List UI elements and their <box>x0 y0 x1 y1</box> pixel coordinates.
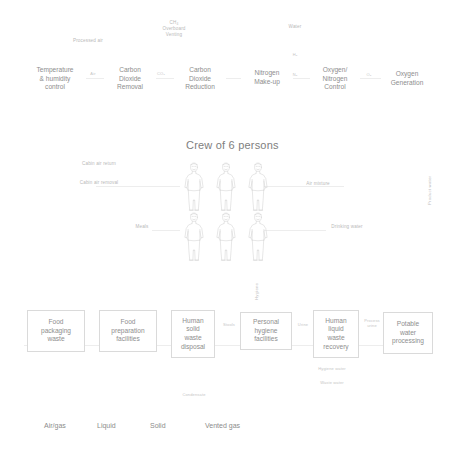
box-carbon-dioxide-reduction[interactable]: Carbon Dioxide Reduction <box>174 61 226 97</box>
flow-label-stools: Stools <box>214 322 244 327</box>
box-food-preparation-facilities[interactable]: Food preparation facilities <box>99 310 157 352</box>
flow-label-processed-air: Processed air <box>60 38 116 44</box>
box-carbon-dioxide-removal[interactable]: Carbon Dioxide Removal <box>104 61 156 97</box>
box-oxygen-nitrogen-control[interactable]: Oxygen/ Nitrogen Control <box>310 61 360 97</box>
wire-crew-left <box>96 186 180 187</box>
flow-label-hygiene: Hygiene <box>254 283 259 300</box>
flow-label-product-water: Product water <box>427 176 432 205</box>
flow-label-process-urine: Process urine <box>357 318 387 328</box>
box-personal-hygiene-facilities[interactable]: Personal hygiene facilities <box>240 312 292 350</box>
crew-figure <box>213 212 239 262</box>
flow-label-h2: H₂ <box>284 52 306 57</box>
box-nitrogen-make-up[interactable]: Nitrogen Make-up <box>241 63 293 93</box>
crew-figure <box>245 162 271 212</box>
box-human-liquid-waste-recovery[interactable]: Human liquid waste recovery <box>313 310 359 358</box>
box-oxygen-generation[interactable]: Oxygen Generation <box>381 65 433 93</box>
box-human-solid-waste-disposal[interactable]: Human solid waste disposal <box>171 310 215 358</box>
flow-label-condensate: Condensate <box>170 392 218 397</box>
box-food-packaging-waste[interactable]: Food packaging waste <box>27 310 85 352</box>
flow-label-n2: N₂ <box>284 72 306 77</box>
legend-item-liquid: Liquid <box>97 422 116 429</box>
flow-label-co2: CO₂ <box>148 71 174 76</box>
legend-item-air-gas: Air/gas <box>44 422 66 429</box>
flow-label-waste-water: Waste water <box>304 380 360 385</box>
flow-label-ch4-overboard-venting: CH₄ Overboard Venting <box>148 20 200 38</box>
flow-label-air-mixture: Air mixture <box>292 181 344 187</box>
box-temperature-humidity-control[interactable]: Temperature & humidity control <box>24 61 86 97</box>
flow-label-urine: Urine <box>289 322 317 327</box>
legend-item-solid: Solid <box>150 422 166 429</box>
flow-label-meals: Meals <box>122 224 162 230</box>
flow-label-hygiene-water: Hygiene water <box>304 366 360 371</box>
crew-figure <box>245 212 271 262</box>
crew-figure <box>181 212 207 262</box>
wire-crew-right-lower <box>264 230 326 231</box>
crew-title: Crew of 6 persons <box>186 139 279 151</box>
box-potable-water-processing[interactable]: Potable water processing <box>383 312 433 354</box>
flow-label-air: Air <box>80 71 106 76</box>
legend-item-vented-gas: Vented gas <box>205 422 240 429</box>
flow-label-drinking-water: Drinking water <box>318 224 376 230</box>
flow-label-cabin-air-removal: Cabin air removal <box>62 180 136 186</box>
crew-figure <box>213 162 239 212</box>
wire-crew-left-lower <box>152 230 180 231</box>
crew-figure <box>181 162 207 212</box>
life-support-diagram: Temperature & humidity control Carbon Di… <box>0 0 450 452</box>
flow-label-water-top: Water <box>272 24 318 30</box>
flow-label-cabin-air-return: Cabin air return <box>62 161 136 167</box>
flow-label-o2: O₂ <box>358 72 380 77</box>
